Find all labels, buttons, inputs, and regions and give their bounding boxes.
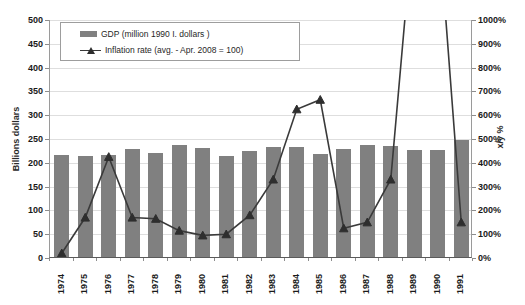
x-tickmark <box>449 258 450 261</box>
y-tickmark-right <box>472 20 476 21</box>
marker-1984 <box>293 105 301 113</box>
y-tick-label-right: 1000% <box>478 15 506 25</box>
x-tickmark <box>261 258 262 261</box>
legend-label-gdp: GDP (million 1990 I. dollars ) <box>101 29 210 39</box>
marker-1976 <box>105 153 113 161</box>
y-tickmark-right <box>472 187 476 188</box>
x-tick-label-1986: 1986 <box>338 267 348 301</box>
y-tickmark-right <box>472 139 476 140</box>
x-tick-label-1983: 1983 <box>267 267 277 301</box>
y-tick-label-right: 700% <box>478 86 501 96</box>
marker-1983 <box>269 175 277 183</box>
x-tick-label-1981: 1981 <box>220 267 230 301</box>
x-tickmark <box>167 258 168 261</box>
x-tickmark <box>190 258 191 261</box>
inflation-markers <box>58 96 466 257</box>
x-tickmark <box>425 258 426 261</box>
marker-1975 <box>81 213 89 221</box>
marker-1988 <box>387 175 395 183</box>
x-tick-label-1976: 1976 <box>103 267 113 301</box>
bar-swatch-icon <box>80 31 97 37</box>
y-tick-label-left: 200 <box>28 158 43 168</box>
y-tickmark-right <box>472 91 476 92</box>
y-axis-left-title: Billions dollars <box>11 99 21 179</box>
y-tick-label-left: 0 <box>38 253 43 263</box>
x-tick-label-1987: 1987 <box>361 267 371 301</box>
x-tickmark <box>402 258 403 261</box>
y-tickmark-right <box>472 210 476 211</box>
y-tick-label-left: 450 <box>28 39 43 49</box>
x-tickmark <box>355 258 356 261</box>
chart-legend: GDP (million 1990 I. dollars ) Inflation… <box>60 22 300 61</box>
legend-item-gdp: GDP (million 1990 I. dollars ) <box>80 28 210 40</box>
y-tick-label-right: 600% <box>478 110 501 120</box>
y-tick-label-right: 900% <box>478 39 501 49</box>
y-tickmark-right <box>472 234 476 235</box>
y-tick-label-left: 350 <box>28 86 43 96</box>
marker-1985 <box>316 96 324 104</box>
marker-1979 <box>175 226 183 234</box>
y-tick-label-left: 50 <box>33 229 43 239</box>
legend-label-inflation: Inflation rate (avg. - Apr. 2008 = 100) <box>105 45 243 55</box>
x-tick-label-1980: 1980 <box>197 267 207 301</box>
y-tick-label-right: 500% <box>478 134 501 144</box>
x-tickmark <box>308 258 309 261</box>
y-tickmark-right <box>472 163 476 164</box>
x-tick-label-1979: 1979 <box>173 267 183 301</box>
x-tickmark <box>214 258 215 261</box>
marker-1987 <box>363 218 371 226</box>
x-tick-label-1990: 1990 <box>432 267 442 301</box>
x-tickmark <box>284 258 285 261</box>
x-tick-label-1975: 1975 <box>79 267 89 301</box>
x-tickmark <box>472 258 473 261</box>
y-tick-label-left: 400 <box>28 63 43 73</box>
x-tick-label-1978: 1978 <box>150 267 160 301</box>
y-tick-label-right: 100% <box>478 229 501 239</box>
x-tickmark <box>96 258 97 261</box>
y-tick-label-left: 100 <box>28 205 43 215</box>
y-tick-label-right: 200% <box>478 205 501 215</box>
y-tick-label-right: 300% <box>478 182 501 192</box>
x-tickmark <box>237 258 238 261</box>
x-tickmark <box>378 258 379 261</box>
y-tickmark-right <box>472 115 476 116</box>
legend-item-inflation: Inflation rate (avg. - Apr. 2008 = 100) <box>80 44 243 56</box>
marker-1991 <box>457 218 465 226</box>
y-tick-label-right: 0% <box>478 253 491 263</box>
y-tick-label-right: 400% <box>478 158 501 168</box>
y-tick-label-left: 500 <box>28 15 43 25</box>
x-tick-label-1989: 1989 <box>408 267 418 301</box>
x-tickmark <box>331 258 332 261</box>
x-tick-label-1988: 1988 <box>385 267 395 301</box>
triangle-marker-icon <box>87 47 95 54</box>
x-tick-label-1991: 1991 <box>455 267 465 301</box>
x-tick-label-1984: 1984 <box>291 267 301 301</box>
x-tick-label-1985: 1985 <box>314 267 324 301</box>
x-tick-label-1977: 1977 <box>126 267 136 301</box>
y-tick-label-left: 300 <box>28 110 43 120</box>
x-tickmark <box>143 258 144 261</box>
x-tick-label-1974: 1974 <box>56 267 66 301</box>
y-tick-label-left: 250 <box>28 134 43 144</box>
y-tickmark-right <box>472 44 476 45</box>
y-tickmark-right <box>472 68 476 69</box>
x-tick-label-1982: 1982 <box>244 267 254 301</box>
x-tickmark <box>73 258 74 261</box>
chart-container: Billions dollars x/y % 05010015020025030… <box>0 0 525 305</box>
y-tick-label-right: 800% <box>478 63 501 73</box>
line-marker-swatch-icon <box>80 46 101 55</box>
x-tickmark <box>120 258 121 261</box>
y-tick-label-left: 150 <box>28 182 43 192</box>
x-tickmark <box>49 258 50 261</box>
